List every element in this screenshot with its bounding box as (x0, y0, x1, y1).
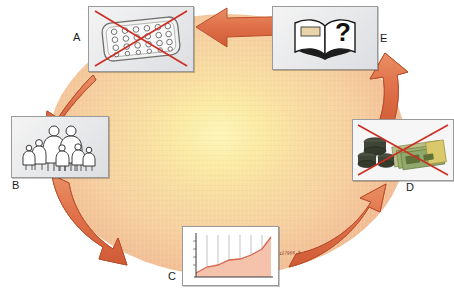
arrow-c-to-d (289, 184, 386, 267)
panel-a-contraceptive-pills[interactable] (88, 6, 194, 72)
cycle-diagram: A (0, 0, 454, 289)
panel-e-open-book-question[interactable]: ? (272, 6, 378, 70)
family-group-icon (12, 117, 108, 177)
panel-c-population-growth-chart[interactable] (182, 226, 279, 286)
panel-label-c: C (168, 270, 176, 282)
panel-d-money-crossed-out[interactable] (352, 119, 454, 181)
panel-b-large-family[interactable] (11, 116, 109, 178)
panel-label-e: E (380, 32, 388, 44)
pill-blister-pack-icon (89, 7, 193, 71)
panel-label-d: D (406, 181, 414, 193)
question-mark-glyph: ? (335, 17, 351, 47)
rising-area-chart-icon (183, 227, 278, 285)
panel-label-b: B (12, 179, 20, 191)
open-book-question-mark-icon: ? (273, 7, 377, 69)
panel-label-a: A (73, 31, 81, 43)
coins-and-banknotes-icon (353, 120, 453, 180)
book-left-page-block (301, 27, 320, 36)
arrow-b-to-c (52, 175, 127, 265)
